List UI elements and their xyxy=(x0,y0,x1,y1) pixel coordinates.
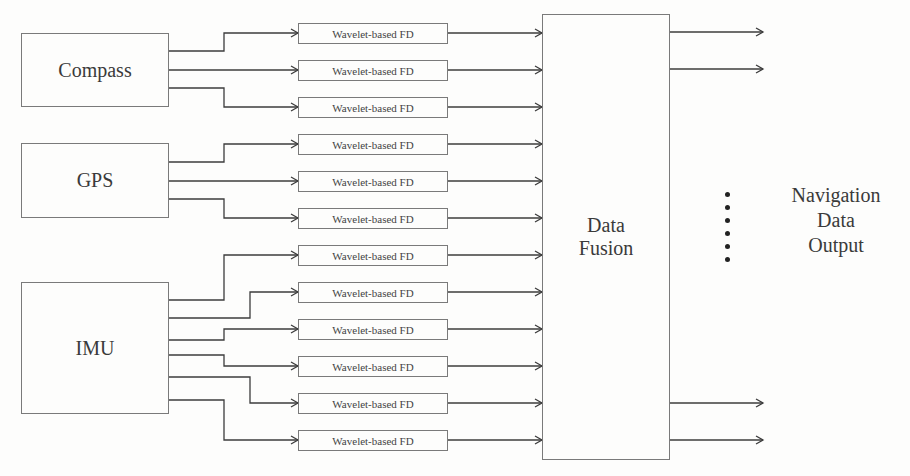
wire-imu-fd10 xyxy=(168,355,298,366)
fd-block-1: Wavelet-based FD xyxy=(298,23,448,44)
fd-label: Wavelet-based FD xyxy=(332,435,413,447)
wire-imu-fd7 xyxy=(168,255,298,300)
imu-block: IMU xyxy=(21,282,169,414)
fd-label: Wavelet-based FD xyxy=(332,176,413,188)
fd-block-6: Wavelet-based FD xyxy=(298,208,448,229)
fd-block-2: Wavelet-based FD xyxy=(298,60,448,81)
data-fusion-label: Data Fusion xyxy=(579,214,633,260)
fd-label: Wavelet-based FD xyxy=(332,324,413,336)
fd-block-12: Wavelet-based FD xyxy=(298,430,448,451)
fd-label: Wavelet-based FD xyxy=(332,213,413,225)
fd-label: Wavelet-based FD xyxy=(332,398,413,410)
wire-imu-fd11 xyxy=(168,377,298,403)
data-fusion-block: Data Fusion xyxy=(542,14,670,460)
navigation-output-label: Navigation Data Output xyxy=(776,183,896,258)
imu-label: IMU xyxy=(76,337,115,360)
wire-imu-fd9 xyxy=(168,329,298,340)
gps-block: GPS xyxy=(21,143,169,218)
fd-label: Wavelet-based FD xyxy=(332,65,413,77)
fd-label: Wavelet-based FD xyxy=(332,102,413,114)
fd-label: Wavelet-based FD xyxy=(332,287,413,299)
wire-compass-fd1 xyxy=(168,33,298,51)
fd-block-8: Wavelet-based FD xyxy=(298,282,448,303)
wire-imu-fd12 xyxy=(168,400,298,440)
compass-label: Compass xyxy=(58,59,131,82)
fd-block-5: Wavelet-based FD xyxy=(298,171,448,192)
wire-gps-fd4 xyxy=(168,144,298,162)
fd-label: Wavelet-based FD xyxy=(332,139,413,151)
wire-imu-fd8 xyxy=(168,292,298,318)
fd-block-3: Wavelet-based FD xyxy=(298,97,448,118)
wire-compass-fd3 xyxy=(168,88,298,107)
fd-label: Wavelet-based FD xyxy=(332,361,413,373)
gps-label: GPS xyxy=(77,169,114,192)
fd-block-7: Wavelet-based FD xyxy=(298,245,448,266)
fd-label: Wavelet-based FD xyxy=(332,250,413,262)
compass-block: Compass xyxy=(21,33,169,107)
wire-gps-fd6 xyxy=(168,199,298,218)
fd-block-11: Wavelet-based FD xyxy=(298,393,448,414)
fd-block-9: Wavelet-based FD xyxy=(298,319,448,340)
fault-detection-fusion-diagram: Compass GPS IMU Wavelet-based FD Wavelet… xyxy=(0,0,910,476)
fd-label: Wavelet-based FD xyxy=(332,28,413,40)
fd-block-10: Wavelet-based FD xyxy=(298,356,448,377)
fd-block-4: Wavelet-based FD xyxy=(298,134,448,155)
